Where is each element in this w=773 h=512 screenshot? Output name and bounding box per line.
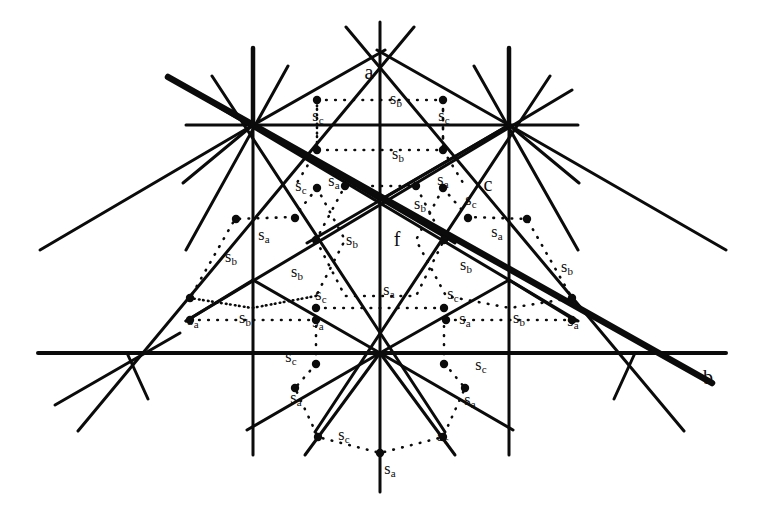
generator-label-s-c: sc: [295, 178, 306, 196]
dual-dot: [341, 182, 349, 190]
generator-label-s-a: sa: [464, 392, 475, 410]
dual-dot: [313, 146, 321, 154]
line-bottomleft-ray-downleft: [55, 333, 180, 405]
label-f: f: [394, 229, 401, 249]
generator-subscript: a: [265, 233, 270, 245]
diagram-canvas: abcfsbscscsbscsasasbscsasasbsbsbsbsbscsa…: [0, 0, 773, 512]
generator-label-s-b: sb: [239, 310, 251, 328]
generator-subscript: b: [466, 263, 472, 275]
generator-label-s-a: sa: [258, 227, 269, 245]
generator-label-s-a: sa: [383, 282, 394, 300]
generator-label-s-b: sb: [346, 232, 358, 250]
generator-label-s-c: sc: [312, 108, 323, 126]
dual-dot: [312, 304, 320, 312]
generator-label-s-c: sc: [475, 357, 486, 375]
generator-subscript: b: [398, 152, 404, 164]
generator-subscript: a: [297, 396, 302, 408]
dual-dot: [568, 294, 576, 302]
generator-label-s-a: sa: [567, 313, 578, 331]
generator-label-s-a: sa: [187, 312, 198, 330]
generator-label-s-a: sa: [312, 314, 323, 332]
generator-label-s-c: sc: [447, 286, 458, 304]
generator-label-s-b: sb: [390, 91, 402, 109]
dual-dot: [314, 433, 322, 441]
generator-label-s-b: sb: [460, 257, 472, 275]
generator-subscript: c: [472, 198, 477, 210]
dual-dot: [439, 96, 447, 104]
dual-dot: [440, 304, 448, 312]
generator-label-s-b: sb: [392, 146, 404, 164]
generator-subscript: b: [519, 316, 525, 328]
line-leftupper-upleft-ray: [183, 125, 253, 183]
generator-label-s-c: sc: [438, 108, 449, 126]
generator-label-s-a: sa: [437, 172, 448, 190]
generator-label-s-a: sa: [290, 390, 301, 408]
dual-dot: [186, 294, 194, 302]
dual-dot: [291, 214, 299, 222]
generator-label-s-a: sa: [384, 461, 395, 479]
generator-subscript: a: [335, 179, 340, 191]
generator-subscript: c: [445, 114, 450, 126]
generator-subscript: a: [194, 318, 199, 330]
generator-label-s-a: sa: [459, 311, 470, 329]
dual-dot: [440, 236, 448, 244]
label-a: a: [365, 62, 374, 82]
generator-subscript: b: [420, 202, 426, 214]
thin-reflection-lines: [38, 22, 726, 492]
generator-subscript: a: [391, 467, 396, 479]
generator-subscript: c: [292, 355, 297, 367]
generator-subscript: a: [466, 317, 471, 329]
dual-dot: [464, 214, 472, 222]
dual-dot: [376, 449, 384, 457]
generator-subscript: c: [454, 292, 459, 304]
generator-subscript: a: [498, 230, 503, 242]
line-rightupper-upright-ray: [509, 125, 579, 183]
generator-subscript: c: [319, 114, 324, 126]
generator-label-s-c: sc: [437, 428, 448, 446]
generator-label-s-b: sb: [513, 310, 525, 328]
generator-subscript: a: [390, 288, 395, 300]
generator-subscript: b: [567, 265, 573, 277]
dual-dot: [312, 236, 320, 244]
generator-subscript: a: [574, 319, 579, 331]
dual-dot: [232, 215, 240, 223]
generator-label-s-b: sb: [414, 196, 426, 214]
generator-subscript: b: [396, 97, 402, 109]
reflection-line-arrangement: [0, 0, 773, 512]
generator-label-s-b: sb: [291, 264, 303, 282]
dual-dot: [442, 316, 450, 324]
generator-label-s-a: sa: [491, 224, 502, 242]
generator-subscript: c: [482, 363, 487, 375]
dual-dot: [312, 360, 320, 368]
generator-label-s-b: sb: [561, 259, 573, 277]
line-triangle-left-edge: [78, 27, 414, 431]
generator-subscript: a: [319, 320, 324, 332]
generator-label-s-c: sc: [465, 192, 476, 210]
dual-dot: [440, 360, 448, 368]
generator-subscript: b: [245, 316, 251, 328]
generator-label-s-b: sb: [225, 249, 237, 267]
generator-label-s-c: sc: [315, 287, 326, 305]
label-b: b: [703, 367, 713, 387]
dual-dot: [412, 182, 420, 190]
generator-subscript: a: [444, 178, 449, 190]
generator-subscript: c: [322, 293, 327, 305]
generator-subscript: a: [471, 398, 476, 410]
dual-dot: [523, 215, 531, 223]
dual-dot: [313, 184, 321, 192]
generator-subscript: b: [297, 270, 303, 282]
generator-label-s-c: sc: [285, 349, 296, 367]
generator-subscript: c: [302, 184, 307, 196]
generator-subscript: c: [345, 433, 350, 445]
generator-subscript: b: [352, 238, 358, 250]
generator-label-s-c: sc: [338, 427, 349, 445]
label-c: c: [484, 174, 493, 194]
dual-dot: [439, 146, 447, 154]
dual-dot: [313, 96, 321, 104]
generator-subscript: b: [231, 255, 237, 267]
generator-subscript: c: [444, 434, 449, 446]
generator-label-s-a: sa: [328, 173, 339, 191]
